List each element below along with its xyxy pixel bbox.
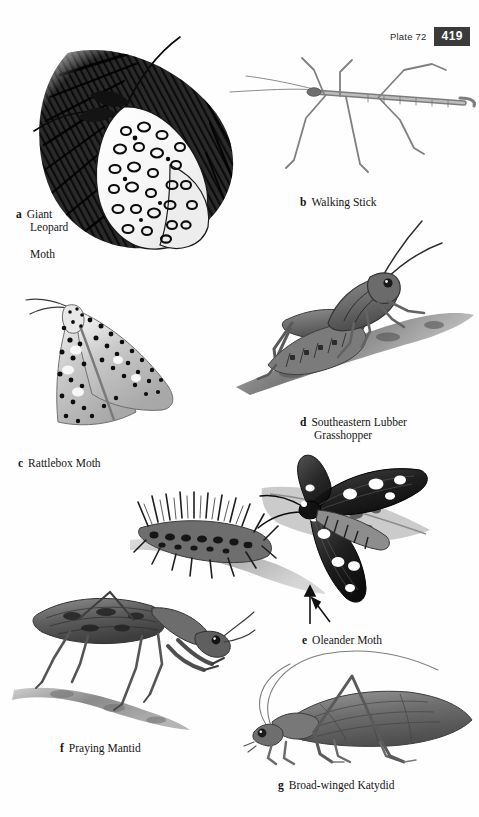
figure-letter-b: b (300, 196, 306, 208)
caption-f: fPraying Mantid (60, 728, 141, 755)
plate-header: Plate 72 419 (390, 28, 469, 45)
caption-d: dSoutheastern Lubber Grasshopper (300, 402, 407, 456)
figure-label-a-line2: Leopard (16, 221, 68, 235)
plate-label: Plate 72 (390, 31, 426, 42)
praying-mantid-illustration (10, 578, 255, 733)
figure-label-g: Broad-winged Katydid (289, 779, 395, 791)
figure-letter-d: d (300, 416, 306, 428)
lubber-grasshopper-illustration (228, 215, 478, 400)
figure-letter-a: a (16, 208, 22, 220)
rattlebox-moth-illustration (18, 282, 208, 437)
figure-label-d-line1: Southeastern Lubber (311, 416, 407, 428)
caption-c: cRattlebox Moth (18, 443, 101, 470)
figure-letter-c: c (18, 457, 23, 469)
plate-page: Plate 72 419 (0, 0, 479, 817)
figure-letter-g: g (278, 779, 284, 791)
caption-g: gBroad-winged Katydid (278, 765, 394, 792)
walking-stick-illustration (228, 48, 478, 178)
figure-label-f: Praying Mantid (69, 742, 141, 754)
broad-winged-katydid-illustration (228, 648, 478, 768)
figure-label-e: Oleander Moth (312, 634, 382, 646)
caption-a: aGiant Leopard Moth (16, 194, 68, 275)
figure-letter-e: e (302, 634, 307, 646)
figure-label-b: Walking Stick (311, 196, 376, 208)
page-number-badge: 419 (435, 28, 469, 45)
figure-letter-f: f (60, 742, 64, 754)
figure-label-c: Rattlebox Moth (28, 457, 101, 469)
caption-b: bWalking Stick (300, 182, 377, 209)
caption-e: eOleander Moth (302, 620, 382, 647)
figure-label-d-line2: Grasshopper (300, 429, 407, 443)
figure-label-a-line1: Giant (27, 208, 53, 220)
figure-label-a-line3: Moth (16, 248, 68, 262)
